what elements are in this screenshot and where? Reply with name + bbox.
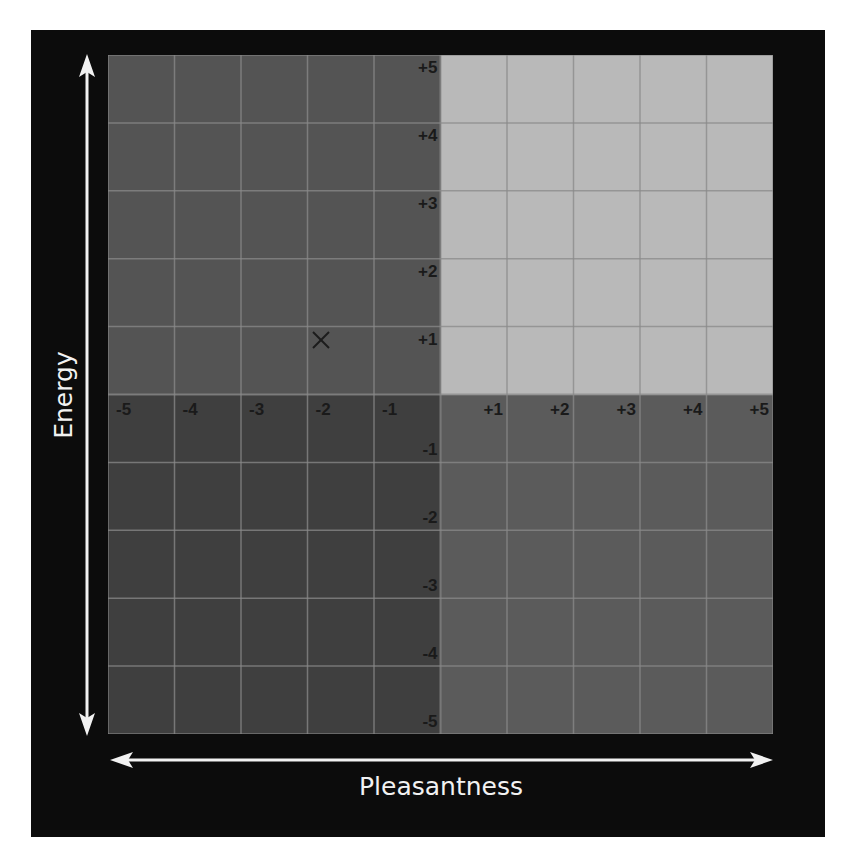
x-tick-label: -1: [382, 401, 397, 418]
plot-area: -5-4-3-2-1+1+2+3+4+5+5+4+3+2+1-1-2-3-4-5: [108, 55, 773, 734]
x-tick-label: -3: [249, 401, 264, 418]
y-tick-label: -5: [422, 713, 437, 730]
x-tick-label: +3: [617, 401, 636, 418]
x-marker-icon: [310, 329, 332, 351]
y-tick-label: +4: [418, 127, 437, 144]
y-tick-label: -2: [422, 509, 437, 526]
x-tick-label: +5: [750, 401, 769, 418]
x-tick-label: -4: [183, 401, 198, 418]
y-axis-label: Energy: [51, 351, 76, 439]
y-tick-label: +5: [418, 59, 437, 76]
y-tick-label: -1: [422, 441, 437, 458]
x-tick-label: +4: [683, 401, 702, 418]
y-tick-label: +3: [418, 195, 437, 212]
x-tick-label: -2: [316, 401, 331, 418]
x-axis-label: Pleasantness: [359, 774, 523, 799]
y-tick-label: -4: [422, 645, 437, 662]
x-tick-label: -5: [116, 401, 131, 418]
y-tick-label: +1: [418, 331, 437, 348]
x-tick-label: +2: [550, 401, 569, 418]
x-tick-label: +1: [484, 401, 503, 418]
y-tick-label: +2: [418, 263, 437, 280]
gridlines: [108, 55, 773, 734]
y-tick-label: -3: [422, 577, 437, 594]
